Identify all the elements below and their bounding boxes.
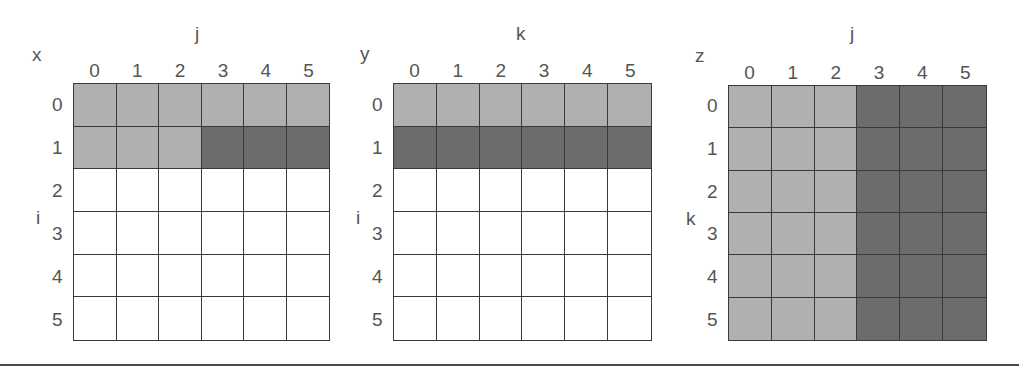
column-label: 3 [523,61,566,80]
matrix-cell [900,213,943,255]
matrix-cell [437,169,480,212]
matrix-cell [943,128,986,170]
row-label: 2 [372,181,383,200]
matrix-cell [394,127,437,170]
matrix-cell [159,127,202,170]
matrix-cell [857,213,900,255]
row-label: 0 [707,96,718,115]
matrix-cell [729,255,772,297]
matrix-cell [159,212,202,255]
matrix-cell [287,84,330,127]
matrix-cell [900,255,943,297]
matrix-cell [244,255,287,298]
matrix-cell [565,212,608,255]
matrix-cell [900,171,943,213]
matrix-cell [857,171,900,213]
bottom-rule [0,364,1019,366]
row-label: 1 [707,139,718,158]
matrix-cell [159,255,202,298]
matrix-cell [480,255,523,298]
row-label: 4 [707,267,718,286]
matrix-cell [117,212,160,255]
row-label: 0 [52,95,63,114]
matrix-cell [394,255,437,298]
matrix-cell [900,128,943,170]
matrix-cell [117,169,160,212]
matrix-cell [202,127,245,170]
row-label: 3 [707,224,718,243]
column-label: 5 [287,61,330,80]
matrix-cell [608,297,651,340]
matrix-cell [480,169,523,212]
matrix-cell [857,86,900,128]
matrix-cell [729,171,772,213]
matrix-cell [437,297,480,340]
matrix-cell [943,171,986,213]
matrix-cell [159,84,202,127]
matrix-cell [437,212,480,255]
matrix-cell [565,84,608,127]
matrix-cell [287,127,330,170]
row-label: 2 [707,182,718,201]
matrix-cell [480,297,523,340]
matrix-cell [729,213,772,255]
matrix-cell [772,86,815,128]
matrix-cell [943,86,986,128]
column-label: 3 [858,63,901,82]
matrix-cell [480,84,523,127]
matrix-cell [522,127,565,170]
row-label: 5 [707,310,718,329]
matrix-cell [244,212,287,255]
matrix-cell [522,212,565,255]
matrix-label-y: y [360,44,370,63]
row-label: 5 [372,310,383,329]
matrix-cell [74,84,117,127]
matrix-cell [772,171,815,213]
matrix-cell [287,212,330,255]
matrix-label-x: x [32,45,42,64]
matrix-cell [522,297,565,340]
row-label: 1 [372,138,383,157]
matrix-cell [608,84,651,127]
column-label: 2 [159,61,202,80]
matrix-cell [900,298,943,340]
matrix-cell [394,84,437,127]
column-axis-label: j [850,24,854,43]
matrix-cell [565,255,608,298]
column-label: 0 [393,61,436,80]
row-label: 3 [372,224,383,243]
matrix-cell [437,255,480,298]
matrix-cell [480,127,523,170]
column-label: 5 [944,63,987,82]
matrix-cell [394,212,437,255]
matrix-cell [159,297,202,340]
matrix-cell [857,128,900,170]
matrix-cell [772,128,815,170]
matrix-cell [202,297,245,340]
matrix-cell [202,255,245,298]
row-label: 4 [52,267,63,286]
matrix-cell [772,255,815,297]
matrix-cell [608,212,651,255]
column-label: 1 [116,61,159,80]
row-label: 2 [52,181,63,200]
matrix-cell [159,169,202,212]
column-label: 3 [202,61,245,80]
matrix-cell [244,84,287,127]
matrix-cell [117,297,160,340]
row-axis-label: i [36,208,40,227]
matrix-cell [815,213,858,255]
row-axis-label: i [356,208,360,227]
matrix-cell [287,297,330,340]
matrix-grid-z [728,85,987,341]
matrix-cell [943,213,986,255]
matrix-cell [565,127,608,170]
matrix-cell [394,297,437,340]
matrix-cell [74,212,117,255]
column-label: 2 [479,61,522,80]
matrix-cell [729,128,772,170]
matrix-cell [437,84,480,127]
column-label: 0 [728,63,771,82]
matrix-cell [565,169,608,212]
column-axis-label: j [195,24,199,43]
